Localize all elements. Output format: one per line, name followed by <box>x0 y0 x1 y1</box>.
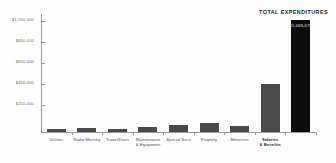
x-axis-tick-mark <box>285 132 286 135</box>
bar-slot <box>77 14 96 132</box>
y-axis-tick-label: $1,050,000 <box>12 17 34 22</box>
x-axis-category-label: Utilities <box>41 137 72 142</box>
expenditures-bar-chart: TOTAL EXPENDITURES $250,000$450,000$650,… <box>0 0 336 163</box>
y-axis-tick-label: $850,000 <box>16 38 34 43</box>
bar-slot <box>138 14 157 132</box>
category-label-line1: Travel/Dues <box>106 137 129 142</box>
bar-category[interactable] <box>77 128 96 132</box>
bar-slot <box>108 14 127 132</box>
category-label-line1: Radio Ministry <box>73 137 100 142</box>
x-axis-tick-mark <box>255 132 256 135</box>
x-axis-tick-mark <box>224 132 225 135</box>
bar-category[interactable] <box>108 129 127 132</box>
bar-category[interactable] <box>230 126 249 133</box>
category-label-line2: & Benefits <box>255 142 286 147</box>
bar-category[interactable] <box>169 125 188 132</box>
x-axis-tick-mark <box>133 132 134 135</box>
bar-total-expenditures[interactable]: $1,065,070 <box>291 20 310 132</box>
category-label-line1: Special Svcs <box>166 137 191 142</box>
bar-category[interactable] <box>261 84 280 132</box>
x-axis-line <box>41 132 316 133</box>
x-axis-category-label: Travel/Dues <box>102 137 133 142</box>
bar-slot <box>47 14 66 132</box>
category-label-line2: & Equipment <box>133 142 164 147</box>
bar-category[interactable] <box>47 129 66 132</box>
bar-value-label: $1,065,070 <box>289 23 312 28</box>
x-axis-category-label: Special Svcs <box>163 137 194 142</box>
bar-slot <box>200 14 219 132</box>
x-axis-category-label: Property <box>194 137 225 142</box>
category-label-line1: Property <box>201 137 217 142</box>
x-axis-category-label: Salaries& Benefits <box>255 137 286 147</box>
bar-category[interactable] <box>138 127 157 132</box>
bars-layer: $1,065,070 <box>41 14 316 132</box>
x-axis-tick-mark <box>72 132 73 135</box>
x-axis-tick-mark <box>194 132 195 135</box>
x-axis-category-label: Radio Ministry <box>72 137 103 142</box>
x-axis-tick-mark <box>163 132 164 135</box>
x-axis-tick-mark <box>102 132 103 135</box>
bar-slot <box>169 14 188 132</box>
category-label-line1: Utilities <box>49 137 63 142</box>
y-axis-tick-label: $650,000 <box>16 59 34 64</box>
x-axis-tick-mark <box>316 132 317 135</box>
y-axis-tick-label: $250,000 <box>16 101 34 106</box>
y-axis-tick-label: $450,000 <box>16 80 34 85</box>
category-label-line1: Ministries <box>230 137 248 142</box>
x-axis-category-label: Maintenance& Equipment <box>133 137 164 147</box>
x-axis-category-label: Ministries <box>224 137 255 142</box>
bar-category[interactable] <box>200 123 219 132</box>
bar-slot <box>261 14 280 132</box>
bar-slot: $1,065,070 <box>291 14 310 132</box>
bar-slot <box>230 14 249 132</box>
